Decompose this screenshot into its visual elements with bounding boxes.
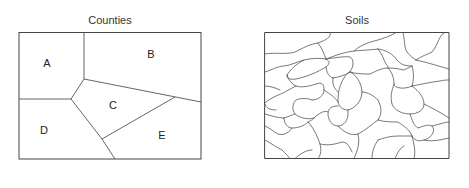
counties-map — [19, 33, 201, 160]
county-label-a: A — [40, 57, 54, 69]
boundary-a-c — [71, 79, 84, 99]
soils-map — [265, 33, 449, 159]
counties-frame — [19, 33, 201, 160]
county-label-b: B — [144, 48, 158, 60]
diagram-canvas — [0, 0, 469, 188]
county-label-d: D — [37, 124, 51, 136]
county-label-c: C — [106, 99, 120, 111]
boundary-b-c-e — [84, 79, 201, 102]
county-label-e: E — [155, 129, 169, 141]
